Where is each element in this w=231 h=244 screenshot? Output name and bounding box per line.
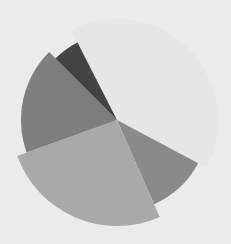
pie-chart — [0, 0, 231, 244]
pie-chart-canvas — [0, 0, 231, 244]
